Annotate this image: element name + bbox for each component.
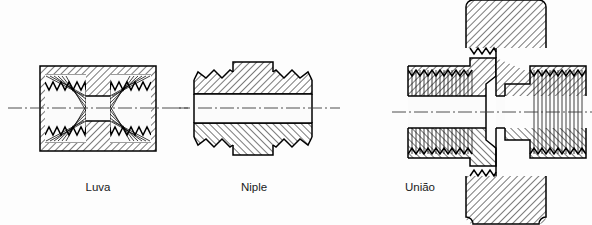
label-luva: Luva	[86, 181, 112, 193]
uniao-nut-top	[466, 0, 546, 48]
technical-drawing-figure: Luva	[0, 0, 592, 225]
luva-bore	[86, 96, 110, 121]
luva-thread-left	[45, 74, 86, 143]
luva-thread-right	[110, 74, 151, 143]
label-uniao: União	[405, 181, 435, 193]
niple-bore	[194, 94, 312, 123]
pipe-fittings-drawing: Luva	[0, 0, 592, 225]
uniao-nut-bottom	[466, 176, 546, 224]
label-niple: Niple	[241, 181, 267, 193]
